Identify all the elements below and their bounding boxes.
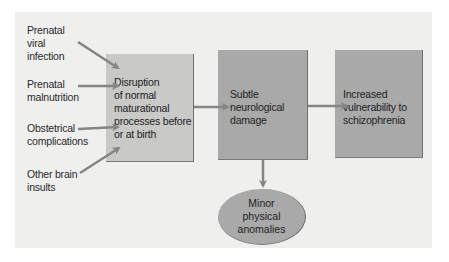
arrow-viral-to-disruption [78, 42, 118, 68]
arrow-brain-insults-to-disruption [80, 148, 119, 173]
arrows-layer [0, 0, 449, 262]
arrow-obstetrical-to-disruption [78, 127, 118, 129]
